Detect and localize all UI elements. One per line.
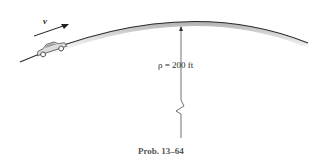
radius-line: [176, 26, 184, 138]
radius-label: ρ = 200 ft: [158, 60, 194, 70]
velocity-arrow: [34, 24, 69, 36]
diagram-canvas: v ρ = 200 ft Prob. 13–64: [0, 0, 327, 164]
velocity-label: v: [43, 16, 48, 26]
figure-caption: Prob. 13–64: [138, 146, 184, 156]
